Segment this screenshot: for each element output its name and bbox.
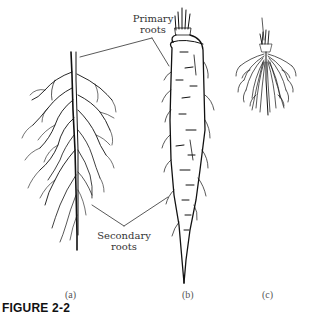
panel-label-c: (c) xyxy=(262,289,273,300)
panel-label-a: (a) xyxy=(65,289,76,300)
primary-roots-label-line1: Primary xyxy=(127,13,179,24)
primary-roots-leader-lines xyxy=(80,38,169,66)
primary-roots-label-line2: roots xyxy=(127,24,179,35)
secondary-roots-label: Secondary roots xyxy=(96,230,152,252)
taproot-system-a xyxy=(22,52,116,250)
figure-caption: FIGURE 2-2 xyxy=(2,301,70,315)
fibrous-root-c xyxy=(236,18,296,115)
primary-roots-label: Primary roots xyxy=(127,13,179,35)
carrot-taproot-b xyxy=(162,8,214,283)
secondary-roots-leader-lines xyxy=(92,197,168,226)
panel-label-b: (b) xyxy=(182,289,194,300)
figure-2-2: Primary roots Secondary roots (a) (b) (c… xyxy=(0,0,313,316)
secondary-roots-label-line2: roots xyxy=(96,241,152,252)
secondary-roots-label-line1: Secondary xyxy=(96,230,152,241)
root-illustrations xyxy=(0,0,313,316)
